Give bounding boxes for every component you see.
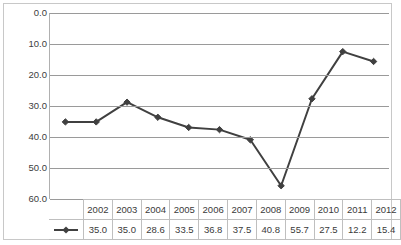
data-point-marker — [62, 119, 68, 125]
data-table: 2002200320042005200620072008200920102011… — [49, 199, 401, 240]
data-point-marker — [185, 124, 191, 130]
gridline — [50, 168, 389, 169]
table-row-years: 2002200320042005200620072008200920102011… — [49, 200, 400, 220]
table-value-cell: 12.2 — [343, 220, 372, 240]
table-header-cell-year: 2012 — [372, 200, 401, 220]
table-value-cell: 35.0 — [112, 220, 141, 240]
y-axis: 0.010.020.030.040.050.060.0 — [4, 4, 49, 199]
table-header-cell-year: 2006 — [199, 200, 228, 220]
chart-container: 0.010.020.030.040.050.060.0 200220032004… — [3, 3, 392, 240]
y-axis-tick-label: 10.0 — [4, 39, 47, 49]
y-axis-tick-label: 30.0 — [4, 101, 47, 111]
table-row-values: 35.035.028.633.536.837.540.855.727.512.2… — [49, 220, 400, 240]
table-header-cell-year: 2004 — [141, 200, 170, 220]
table-value-cell: 28.6 — [141, 220, 170, 240]
y-axis-tick-label: 50.0 — [4, 163, 47, 173]
table-header-cell-year: 2008 — [256, 200, 285, 220]
table-header-cell-year: 2005 — [170, 200, 199, 220]
data-point-marker — [370, 58, 376, 64]
table-header-cell-year: 2003 — [112, 200, 141, 220]
table-value-cell: 35.0 — [84, 220, 113, 240]
data-point-marker — [216, 126, 222, 132]
table-header-cell-year: 2009 — [285, 200, 314, 220]
gridline — [50, 106, 389, 107]
table-header-cell-year: 2002 — [84, 200, 113, 220]
series-line — [65, 52, 373, 186]
plot-area — [49, 13, 389, 199]
table-header-cell-year: 2007 — [228, 200, 257, 220]
table-value-cell: 15.4 — [372, 220, 401, 240]
gridline — [50, 44, 389, 45]
table-legend-spacer — [49, 200, 84, 220]
gridline — [50, 137, 389, 138]
table-value-cell: 40.8 — [256, 220, 285, 240]
y-axis-tick-label: 60.0 — [4, 194, 47, 204]
table-header-cell-year: 2010 — [314, 200, 343, 220]
data-point-marker — [155, 114, 161, 120]
y-axis-tick-label: 0.0 — [4, 8, 47, 18]
y-axis-tick-label: 20.0 — [4, 70, 47, 80]
table-value-cell: 27.5 — [314, 220, 343, 240]
gridline — [50, 75, 389, 76]
legend-line-diamond-icon — [49, 220, 83, 239]
table-value-cell: 33.5 — [170, 220, 199, 240]
legend-marker-cell — [49, 220, 84, 240]
table-value-cell: 36.8 — [199, 220, 228, 240]
table-value-cell: 37.5 — [228, 220, 257, 240]
table-value-cell: 55.7 — [285, 220, 314, 240]
y-axis-tick-label: 40.0 — [4, 132, 47, 142]
table-header-cell-year: 2011 — [343, 200, 372, 220]
